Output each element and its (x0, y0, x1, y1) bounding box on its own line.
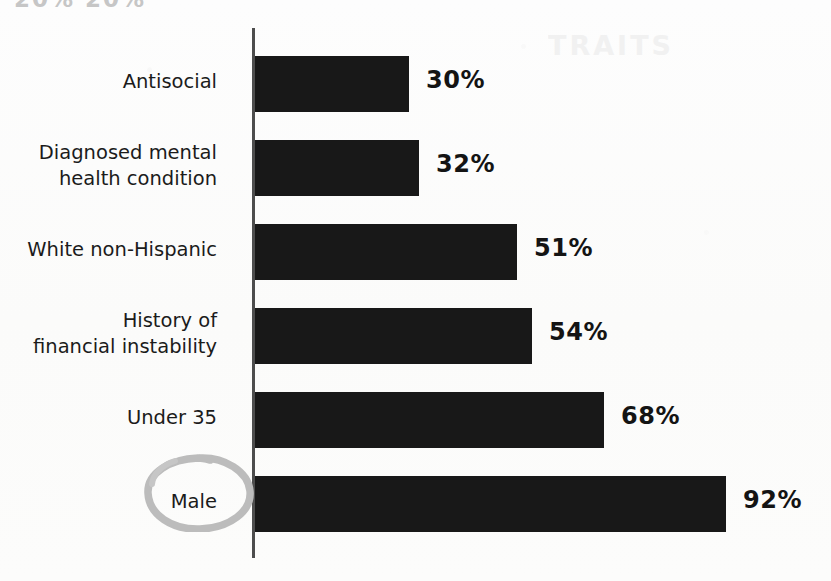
bar-row: History of financial instability 54% (0, 294, 831, 378)
bar-antisocial (255, 56, 409, 112)
bar-history-of-financial-instability (255, 308, 532, 364)
category-label-history-of-financial-instability: History of financial instability (0, 308, 217, 360)
bar-row: Antisocial 30% (0, 42, 831, 126)
bar-value-white-non-hispanic: 51% (534, 234, 593, 262)
bar-white-non-hispanic (255, 224, 517, 280)
bar-diagnosed-mental-health-condition (255, 140, 419, 196)
bar-row: Diagnosed mental health condition 32% (0, 126, 831, 210)
plot-area: Antisocial 30% Diagnosed mental health c… (0, 0, 831, 581)
category-label-antisocial: Antisocial (0, 69, 217, 95)
bar-under-35 (255, 392, 604, 448)
category-label-under-35: Under 35 (0, 405, 217, 431)
bar-value-male: 92% (743, 486, 802, 514)
bar-chart-page: 20% 20% TRAITS Antisocial 30% Diagnosed … (0, 0, 831, 581)
bar-row: Male 92% (0, 462, 831, 546)
bar-value-antisocial: 30% (426, 66, 485, 94)
category-label-white-non-hispanic: White non-Hispanic (0, 237, 217, 263)
bar-value-diagnosed-mental-health-condition: 32% (436, 150, 495, 178)
bar-value-history-of-financial-instability: 54% (549, 318, 608, 346)
category-label-male: Male (0, 489, 217, 515)
bar-value-under-35: 68% (621, 402, 680, 430)
bar-row: Under 35 68% (0, 378, 831, 462)
category-label-diagnosed-mental-health-condition: Diagnosed mental health condition (0, 140, 217, 192)
bar-row: White non-Hispanic 51% (0, 210, 831, 294)
bar-male (255, 476, 726, 532)
